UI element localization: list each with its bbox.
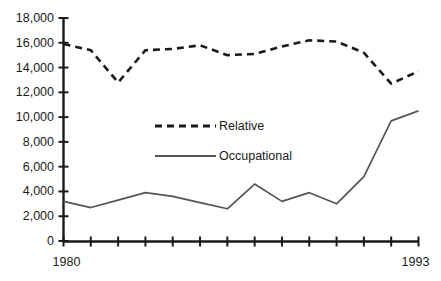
series-line-relative bbox=[64, 40, 419, 83]
y-axis-tick-label: 8,000 bbox=[0, 136, 54, 149]
x-axis-label-end: 1993 bbox=[394, 256, 438, 269]
legend-item-occupational: Occupational bbox=[219, 150, 292, 163]
legend-item-relative: Relative bbox=[219, 120, 264, 133]
y-axis-tick-label: 10,000 bbox=[0, 111, 54, 124]
y-axis-tick-label: 12,000 bbox=[0, 86, 54, 99]
x-axis-label-start: 1980 bbox=[45, 256, 89, 269]
legend-swatches bbox=[155, 126, 216, 156]
chart-figure: 02,0004,0006,0008,00010,00012,00014,0001… bbox=[0, 0, 441, 281]
y-axis-tick-label: 0 bbox=[0, 235, 54, 248]
y-axis-tick-label: 2,000 bbox=[0, 210, 54, 223]
y-axis-tick-label: 14,000 bbox=[0, 62, 54, 75]
chart-plot-area bbox=[0, 0, 441, 281]
y-axis-tick-label: 4,000 bbox=[0, 185, 54, 198]
y-axis-tick-label: 18,000 bbox=[0, 12, 54, 25]
y-axis-tick-label: 6,000 bbox=[0, 161, 54, 174]
y-axis-tick-label: 16,000 bbox=[0, 37, 54, 50]
